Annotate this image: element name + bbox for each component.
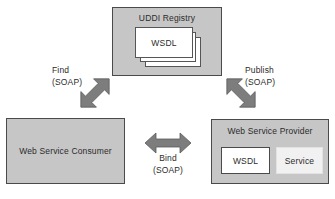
find-arrow-label: Find (SOAP) bbox=[52, 64, 82, 88]
wsdl-document-card-front: WSDL bbox=[135, 27, 193, 58]
find-protocol-text: (SOAP) bbox=[52, 76, 82, 88]
publish-protocol-text: (SOAP) bbox=[245, 76, 275, 88]
provider-service-box: Service bbox=[276, 147, 323, 174]
uddi-registry-title: UDDI Registry bbox=[113, 13, 221, 23]
publish-arrow-label: Publish (SOAP) bbox=[245, 64, 275, 88]
bind-protocol-text: (SOAP) bbox=[144, 164, 192, 176]
provider-wsdl-box: WSDL bbox=[221, 147, 270, 174]
wsdl-document-stack: WSDL bbox=[135, 27, 203, 69]
diagram-canvas: UDDI Registry WSDL Web Service Consumer … bbox=[0, 0, 335, 199]
web-service-consumer-label: Web Service Consumer bbox=[7, 146, 124, 156]
uddi-registry-node: UDDI Registry WSDL bbox=[112, 7, 222, 76]
find-operation-text: Find bbox=[52, 65, 69, 75]
web-service-consumer-node: Web Service Consumer bbox=[6, 118, 125, 184]
wsdl-document-label: WSDL bbox=[136, 38, 192, 48]
bind-arrow bbox=[144, 132, 192, 154]
provider-wsdl-label: WSDL bbox=[222, 156, 269, 166]
web-service-provider-node: Web Service Provider WSDL Service bbox=[211, 119, 329, 184]
bind-operation-text: Bind bbox=[159, 153, 177, 163]
provider-service-label: Service bbox=[277, 156, 322, 166]
publish-operation-text: Publish bbox=[245, 65, 274, 75]
web-service-provider-title: Web Service Provider bbox=[212, 126, 328, 136]
bind-arrow-label: Bind (SOAP) bbox=[144, 152, 192, 176]
